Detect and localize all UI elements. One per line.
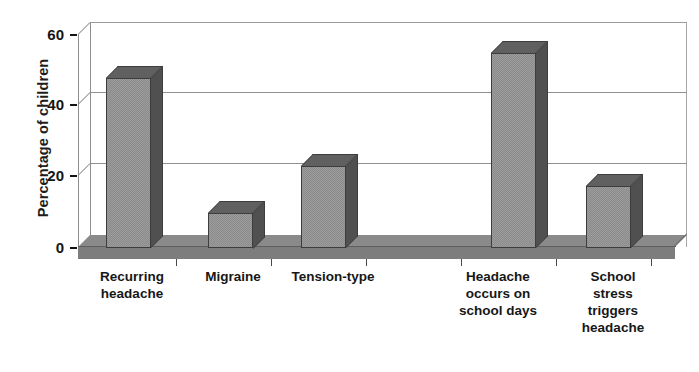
bar-front-face	[491, 53, 536, 248]
depth-connector-40	[78, 92, 91, 105]
bar-migraine[interactable]	[208, 213, 253, 249]
bar-side-face	[151, 66, 163, 248]
x-label-line: occurs on	[438, 285, 558, 302]
gridline-40	[90, 92, 687, 93]
bar-side-face	[631, 174, 643, 248]
x-tick-mark-2	[271, 259, 272, 266]
x-label-line: headache	[80, 285, 184, 302]
gridline-20	[90, 163, 687, 164]
x-label-line: stress	[558, 285, 668, 302]
bar-front-face	[106, 78, 151, 248]
y-tick-label-60: 60	[30, 26, 64, 43]
bar-recurring-headache[interactable]	[106, 78, 151, 248]
bar-school-stress[interactable]	[586, 186, 631, 248]
bar-tension-type[interactable]	[301, 166, 346, 248]
y-axis-line	[78, 34, 79, 247]
x-label-line: Headache	[438, 268, 558, 285]
x-label-line: Tension-type	[278, 268, 388, 285]
y-axis-title: Percentage of children	[35, 33, 51, 243]
y-tick-mark-60	[70, 34, 77, 36]
x-label-line: triggers	[558, 302, 668, 319]
y-tick-label-0: 0	[30, 239, 64, 256]
bar-side-face	[346, 154, 358, 248]
bar-chart: Percentage of children 60 40 20 0	[0, 0, 699, 372]
y-tick-mark-20	[70, 175, 77, 177]
y-tick-mark-40	[70, 104, 77, 106]
chart-floor	[78, 247, 675, 259]
x-tick-mark-5	[556, 259, 557, 266]
x-label-line: Migraine	[188, 268, 278, 285]
bar-front-face	[208, 213, 253, 249]
x-label-recurring-headache: Recurring headache	[80, 268, 184, 302]
x-label-line: School	[558, 268, 668, 285]
bar-front-face	[586, 186, 631, 248]
x-label-line: school days	[438, 302, 558, 319]
x-label-line: Recurring	[80, 268, 184, 285]
x-label-school-stress: School stress triggers headache	[558, 268, 668, 336]
depth-connector-20	[78, 163, 91, 176]
plot-area	[78, 22, 688, 260]
x-label-tension-type: Tension-type	[278, 268, 388, 285]
x-label-headache-school-days: Headache occurs on school days	[438, 268, 558, 319]
x-tick-mark-3	[366, 259, 367, 266]
depth-connector-60	[78, 22, 91, 35]
y-tick-mark-0	[70, 247, 77, 249]
gridline-60	[90, 22, 687, 23]
bar-side-face	[536, 41, 548, 248]
bar-front-face	[301, 166, 346, 248]
x-tick-mark-4	[461, 259, 462, 266]
x-label-line: headache	[558, 319, 668, 336]
x-tick-mark-6	[651, 259, 652, 266]
x-tick-mark-1	[176, 259, 177, 266]
y-tick-label-40: 40	[30, 96, 64, 113]
y-tick-label-20: 20	[30, 167, 64, 184]
bar-headache-school-days[interactable]	[491, 53, 536, 248]
x-label-migraine: Migraine	[188, 268, 278, 285]
